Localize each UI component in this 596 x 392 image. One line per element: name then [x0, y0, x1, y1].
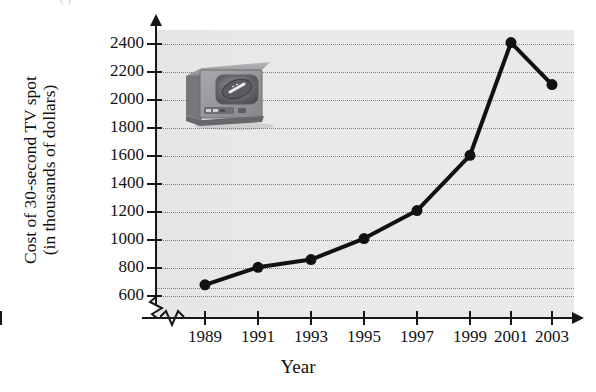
y-axis-arrow: [150, 14, 162, 26]
y-tick-label-2200: 2200: [88, 61, 144, 81]
y-tick-800: [147, 267, 162, 269]
y-axis-title-line-2: (in thousands of dollars): [40, 25, 59, 315]
y-tick-1000: [147, 239, 162, 241]
y-tick-2400: [147, 43, 162, 45]
x-tick-label-1993: 1993: [281, 327, 341, 347]
y-tick-label-1400: 1400: [88, 173, 144, 193]
retro-television-icon: [182, 56, 278, 130]
y-axis-title-line-1: Cost of 30-second TV spot: [20, 76, 40, 264]
y-tick-label-600: 600: [88, 285, 144, 305]
y-axis-title: Cost of 30-second TV spot (in thousands …: [21, 25, 61, 315]
y-tick-2200: [147, 71, 162, 73]
gridline-800: [156, 268, 574, 269]
gridline-600: [156, 296, 574, 297]
y-tick-label-1600: 1600: [88, 145, 144, 165]
y-tick-labels: 2400 2200 2000 1800 1600 1400 1200 1000 …: [88, 0, 144, 392]
chart-figure: ( ) Cost of 30-second TV spot (in thousa…: [0, 0, 596, 392]
x-tick-label-2003: 2003: [522, 327, 582, 347]
x-tick-label-1989: 1989: [175, 327, 235, 347]
y-tick-1200: [147, 211, 162, 213]
x-axis-title: Year: [0, 356, 596, 378]
y-tick-label-1000: 1000: [88, 229, 144, 249]
y-axis-line: [155, 24, 157, 306]
x-tick-1991: [257, 311, 259, 325]
y-tick-label-2400: 2400: [88, 33, 144, 53]
x-axis-arrow: [572, 312, 584, 324]
y-tick-1600: [147, 155, 162, 157]
y-tick-2000: [147, 99, 162, 101]
x-tick-2001: [510, 311, 512, 325]
y-tick-label-1200: 1200: [88, 201, 144, 221]
y-tick-label-800: 800: [88, 257, 144, 277]
x-tick-1993: [310, 311, 312, 325]
y-tick-label-2000: 2000: [88, 89, 144, 109]
x-tick-1995: [363, 311, 365, 325]
x-tick-label-1995: 1995: [334, 327, 394, 347]
gridline-2400: [156, 44, 574, 45]
y-tick-1400: [147, 183, 162, 185]
x-tick-2003: [551, 311, 553, 325]
x-tick-label-1997: 1997: [387, 327, 447, 347]
x-tick-label-1991: 1991: [228, 327, 288, 347]
gridline-1400: [156, 184, 574, 185]
x-tick-1999: [469, 311, 471, 325]
x-tick-1997: [416, 311, 418, 325]
y-tick-1800: [147, 127, 162, 129]
gridline-1200: [156, 212, 574, 213]
x-tick-1989: [204, 311, 206, 325]
gridline-1000: [156, 240, 574, 241]
x-axis-break-mark: [160, 308, 186, 328]
gridline-1600: [156, 156, 574, 157]
y-tick-label-1800: 1800: [88, 117, 144, 137]
gridline-700: [156, 288, 574, 289]
